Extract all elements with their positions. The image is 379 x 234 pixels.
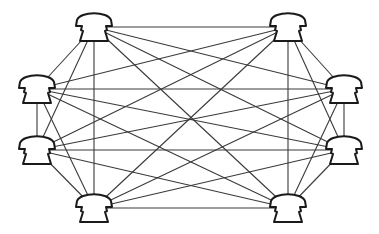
- telephone-node-top-right: [270, 13, 306, 41]
- telephone-icon: [326, 136, 362, 164]
- connection-line-right-lower-to-bottom-left: [94, 150, 344, 208]
- telephone-icon: [270, 194, 306, 222]
- connection-line-top-left-to-right-upper: [94, 27, 344, 89]
- telephone-node-top-left: [76, 13, 112, 41]
- connection-line-left-lower-to-bottom-right: [37, 150, 288, 208]
- telephone-icon: [19, 75, 55, 103]
- telephone-icon: [270, 13, 306, 41]
- telephone-icon: [326, 75, 362, 103]
- telephone-icon: [76, 13, 112, 41]
- connection-lines: [37, 27, 344, 208]
- connection-line-top-right-to-left-upper: [37, 27, 288, 89]
- telephone-node-bottom-left: [76, 194, 112, 222]
- telephone-node-right-lower: [326, 136, 362, 164]
- telephone-node-left-lower: [19, 136, 55, 164]
- telephone-icon: [76, 194, 112, 222]
- telephone-node-left-upper: [19, 75, 55, 103]
- mesh-network-diagram: [0, 0, 379, 234]
- connection-line-right-upper-to-bottom-left: [94, 89, 344, 208]
- telephone-node-bottom-right: [270, 194, 306, 222]
- connection-line-left-upper-to-bottom-right: [37, 89, 288, 208]
- telephone-node-right-upper: [326, 75, 362, 103]
- telephone-icon: [19, 136, 55, 164]
